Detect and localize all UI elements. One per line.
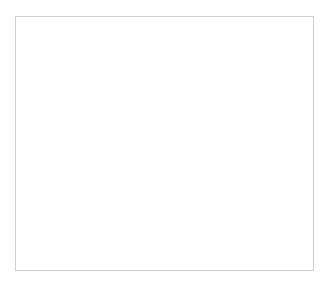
bar3d-chart <box>0 0 328 284</box>
